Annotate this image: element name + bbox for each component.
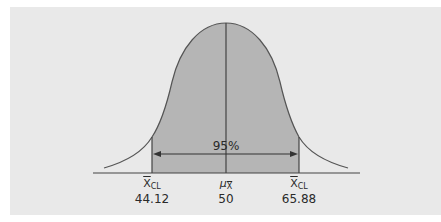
tick-upper-value: 65.88 [282,193,316,206]
tick-mean: μX 50 [218,177,233,206]
tick-lower-symbol: XCL [135,177,169,193]
tick-mean-symbol: μX [218,177,233,193]
tick-lower: XCL 44.12 [135,177,169,206]
tick-lower-value: 44.12 [135,193,169,206]
tick-upper-symbol: XCL [282,177,316,193]
tick-upper: XCL 65.88 [282,177,316,206]
confidence-label: 95% [213,139,240,153]
tick-mean-value: 50 [218,193,233,206]
